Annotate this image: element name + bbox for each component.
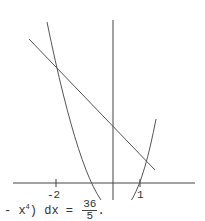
straight-line — [29, 39, 155, 170]
fraction: 365 — [82, 199, 97, 221]
plot-area: -2 1 — [0, 0, 205, 200]
fraction-denominator: 5 — [82, 211, 97, 221]
formula-prefix: - x — [4, 204, 26, 218]
formula-end: . — [97, 204, 104, 218]
integral-result: - x4) dx = 365. — [4, 199, 105, 221]
parabola-curve — [47, 22, 156, 200]
formula-suffix: ) dx = — [30, 204, 80, 218]
tick-label-1: 1 — [137, 189, 144, 200]
